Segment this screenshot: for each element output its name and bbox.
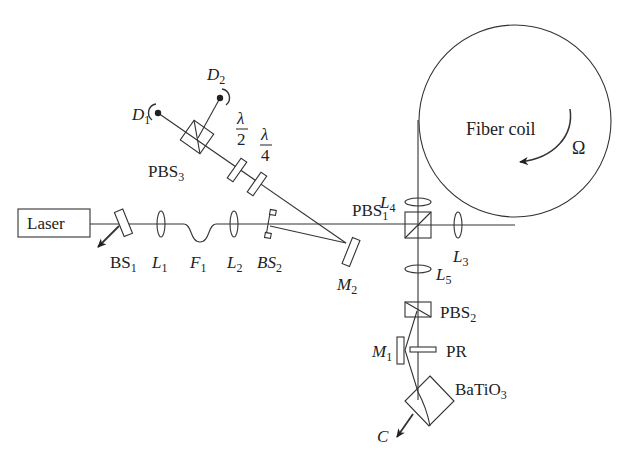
beam-splitter-1: [98, 209, 133, 247]
svg-text:D2: D2: [206, 65, 225, 87]
half-wave-plate: [227, 158, 246, 182]
svg-text:λ: λ: [236, 109, 244, 128]
svg-text:BaTiO3: BaTiO3: [455, 380, 507, 402]
svg-text:F1: F1: [189, 253, 206, 275]
svg-text:M2: M2: [336, 275, 357, 297]
svg-text:4: 4: [261, 146, 270, 165]
svg-text:BS2: BS2: [257, 253, 282, 275]
svg-text:2: 2: [237, 130, 246, 149]
svg-text:M1: M1: [371, 342, 392, 364]
svg-text:L5: L5: [435, 265, 451, 287]
svg-text:Ω: Ω: [572, 138, 585, 158]
svg-text:Laser: Laser: [27, 214, 65, 233]
svg-text:D1: D1: [131, 105, 150, 127]
optical-diagram: Laser: [0, 0, 630, 454]
detector-d1: [148, 104, 161, 120]
svg-text:L4: L4: [379, 193, 395, 215]
svg-text:L3: L3: [452, 247, 468, 269]
svg-text:C: C: [377, 427, 389, 446]
phase-retarder-pr: [410, 347, 436, 352]
svg-text:L2: L2: [226, 253, 242, 275]
mirror-m1: [397, 337, 404, 364]
svg-text:BS1: BS1: [110, 253, 137, 275]
detector-d2: [217, 89, 230, 105]
svg-text:L1: L1: [151, 253, 167, 275]
svg-text:PBS3: PBS3: [148, 162, 184, 184]
pbs3-to-d2-beam: [198, 98, 220, 138]
quarter-wave-plate: [247, 172, 266, 196]
laser: Laser: [18, 209, 90, 237]
svg-text:PBS2: PBS2: [440, 303, 476, 325]
batio3-crystal: [397, 376, 454, 437]
svg-text:PR: PR: [446, 342, 467, 361]
svg-text:λ: λ: [260, 125, 268, 144]
svg-text:Fiber coil: Fiber coil: [466, 119, 536, 139]
